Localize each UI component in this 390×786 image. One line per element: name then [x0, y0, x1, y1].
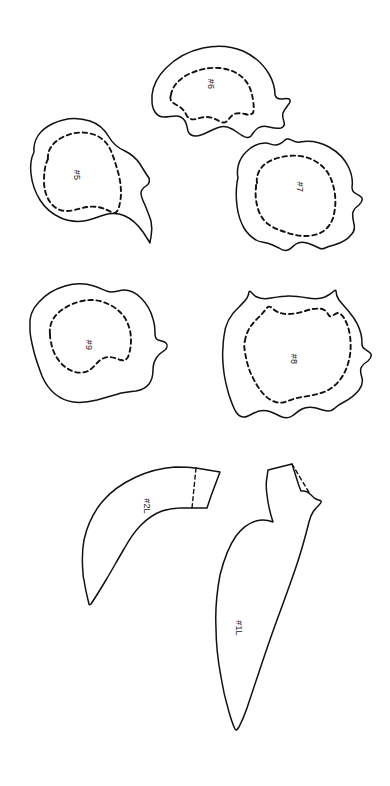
pattern-canvas: #5 #6 #7 #9 [0, 0, 390, 786]
pattern-sheet: #5 #6 #7 #9 [0, 0, 390, 786]
piece-8-label: #8 [289, 354, 299, 364]
piece-5-label: #5 [72, 170, 82, 180]
piece-9-label: #9 [84, 340, 94, 350]
piece-1L-label: #1L [234, 620, 244, 636]
piece-2L-label: #2L [142, 498, 152, 514]
piece-6-label: #6 [206, 79, 216, 89]
piece-7-label: #7 [295, 182, 305, 192]
